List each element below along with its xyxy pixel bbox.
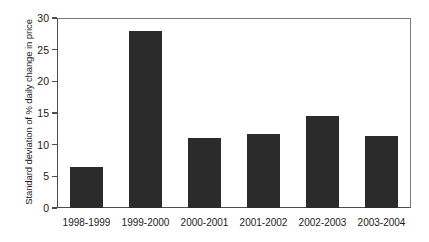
x-axis-label-2001-2002: 2001-2002 (234, 216, 293, 229)
y-tick-label: 25 (37, 43, 49, 57)
bar-2002-2003 (306, 116, 339, 208)
y-tick-label: 20 (37, 74, 49, 88)
bar-2000-2001 (188, 138, 221, 208)
y-tick-label: 10 (37, 138, 49, 152)
x-axis-label-1998-1999: 1998-1999 (57, 216, 116, 229)
x-axis-label-2000-2001: 2000-2001 (175, 216, 234, 229)
bar-2003-2004 (365, 136, 398, 208)
y-axis-title: Standard deviation of % daily change in … (22, 12, 36, 212)
bar-chart-figure: Standard deviation of % daily change in … (0, 0, 429, 242)
bar-2001-2002 (247, 134, 280, 208)
x-axis-label-2002-2003: 2002-2003 (293, 216, 352, 229)
bar-1999-2000 (129, 31, 162, 208)
x-axis-label-2003-2004: 2003-2004 (352, 216, 411, 229)
plot-area (57, 18, 411, 208)
y-tick-label: 0 (43, 201, 49, 215)
y-tick-label: 30 (37, 11, 49, 25)
y-tick-label: 15 (37, 106, 49, 120)
bar-1998-1999 (70, 167, 103, 208)
x-axis-label-1999-2000: 1999-2000 (116, 216, 175, 229)
y-tick-label: 5 (43, 169, 49, 183)
